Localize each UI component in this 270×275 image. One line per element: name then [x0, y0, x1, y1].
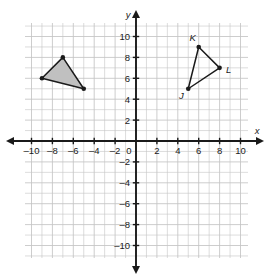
vertex-dot	[196, 45, 201, 50]
origin-label: 0	[126, 145, 131, 156]
x-tick-label: –8	[47, 145, 58, 156]
x-tick-label: 6	[196, 145, 201, 156]
x-tick-label: 2	[154, 145, 159, 156]
x-tick-label: –2	[110, 145, 121, 156]
vertex-dot	[61, 55, 66, 60]
x-tick-label: 8	[217, 145, 222, 156]
vertex-label-k: K	[190, 32, 197, 43]
y-tick-label: –6	[119, 198, 130, 209]
coordinate-plane-svg: –10–8–6–4–22468100–10–8–6–4–2246810 JKL …	[0, 0, 270, 275]
y-tick-label: –2	[119, 156, 130, 167]
y-tick-label: –4	[119, 177, 130, 188]
x-tick-label: 4	[175, 145, 180, 156]
x-tick-label: –4	[89, 145, 100, 156]
vertex-label-l: L	[226, 64, 231, 75]
x-tick-label: 10	[235, 145, 246, 156]
x-tick-label: –6	[68, 145, 79, 156]
vertex-dot	[186, 86, 191, 91]
y-tick-label: 6	[125, 73, 130, 84]
y-tick-label: 4	[125, 94, 130, 105]
vertex-dot	[217, 66, 222, 71]
y-tick-label: –8	[119, 219, 130, 230]
vertex-label-j: J	[178, 90, 184, 101]
coordinate-plane-figure: –10–8–6–4–22468100–10–8–6–4–2246810 JKL …	[0, 0, 270, 275]
figure-background	[0, 0, 270, 275]
x-tick-label: –10	[24, 145, 40, 156]
y-tick-label: 8	[125, 52, 130, 63]
y-tick-label: –10	[114, 240, 130, 251]
y-tick-label: 10	[119, 31, 130, 42]
vertex-dot	[40, 76, 45, 81]
vertex-dot	[81, 86, 86, 91]
y-tick-label: 2	[125, 115, 130, 126]
